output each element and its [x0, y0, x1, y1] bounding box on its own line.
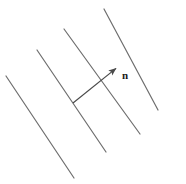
normal-arrow — [73, 68, 116, 103]
normal-arrow-shaft — [73, 68, 116, 103]
wavefront-diagram: n — [0, 0, 186, 184]
diagram-canvas — [0, 0, 186, 184]
perpendicular-corner-marker — [60, 88, 73, 103]
wavefront-line-3 — [64, 29, 140, 134]
normal-vector-label: n — [122, 70, 128, 81]
wavefront-lines-group — [6, 9, 158, 178]
wavefront-line-1 — [6, 76, 74, 178]
